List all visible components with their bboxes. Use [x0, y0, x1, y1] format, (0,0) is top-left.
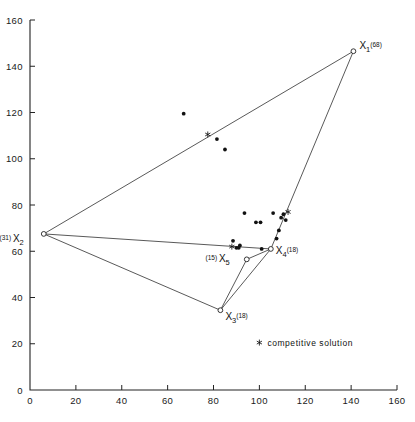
x-tick-label: 20 [70, 395, 81, 406]
demand-point-dot [223, 148, 227, 152]
axis-lines [30, 20, 397, 390]
y-tick-label: 20 [12, 338, 23, 349]
facility-node-labels: X1(68)(31) X2X3(18)X4(18)(15) X5 [0, 40, 382, 325]
x-tick-label: 120 [297, 395, 314, 406]
demand-point-dot [231, 239, 235, 243]
plot-canvas: 0204060801001201401600204060801001201401… [0, 0, 415, 422]
competitive-solution-star [205, 131, 210, 137]
x-tick-label: 160 [388, 395, 405, 406]
demand-point-dot [215, 137, 219, 141]
facility-node-x5 [244, 257, 249, 262]
facility-node-x1 [351, 49, 356, 54]
x-tick-label: 140 [343, 395, 360, 406]
facility-node-markers [41, 49, 355, 313]
network-edges [44, 51, 354, 310]
x-tick-label: 40 [116, 395, 127, 406]
network-edge-x2-x1 [44, 51, 354, 234]
demand-point-dot [284, 218, 288, 222]
y-tick-label: 100 [6, 153, 23, 164]
demand-point-dot [277, 229, 281, 233]
node-label-x5: (15) X5 [206, 253, 230, 267]
y-tick-label: 80 [12, 200, 23, 211]
x-tick-label: 100 [251, 395, 268, 406]
y-tick-label: 40 [12, 292, 23, 303]
network-edge-x2-x3 [44, 234, 221, 310]
demand-point-dot [182, 112, 186, 116]
demand-point-dot [243, 211, 247, 215]
axis-ticks [30, 20, 397, 390]
legend-label: competitive solution [267, 338, 353, 348]
scatter-chart: 0204060801001201401600204060801001201401… [0, 0, 415, 422]
demand-point-dot [279, 216, 283, 220]
axes [30, 20, 397, 390]
demand-point-dot [238, 244, 242, 248]
facility-node-x2 [41, 232, 46, 237]
network-edge-x3-x5 [220, 259, 246, 310]
y-tick-label: 60 [12, 246, 23, 257]
y-tick-label: 120 [6, 107, 23, 118]
legend-asterisk-icon [257, 340, 262, 346]
network-edge-x5-x4 [247, 249, 271, 259]
node-label-x3: X3(18) [225, 311, 247, 325]
x-tick-label: 60 [162, 395, 173, 406]
demand-point-markers [182, 112, 288, 251]
y-tick-label: 140 [6, 61, 23, 72]
demand-point-dot [260, 247, 264, 251]
node-label-x1: X1(68) [359, 40, 381, 54]
legend: competitive solution [257, 338, 353, 348]
node-label-x4: X4(18) [276, 245, 298, 259]
demand-point-dot [271, 211, 275, 215]
y-tick-label: 0 [17, 385, 23, 396]
y-tick-label: 160 [6, 15, 23, 26]
x-tick-label: 0 [27, 395, 33, 406]
demand-point-dot [275, 237, 279, 241]
demand-point-dot [282, 212, 286, 216]
demand-point-dot [259, 220, 263, 224]
facility-node-x3 [218, 308, 223, 313]
x-tick-label: 80 [208, 395, 219, 406]
network-edge-x1-x4 [271, 51, 354, 249]
facility-node-x4 [268, 247, 273, 252]
demand-point-dot [254, 220, 258, 224]
